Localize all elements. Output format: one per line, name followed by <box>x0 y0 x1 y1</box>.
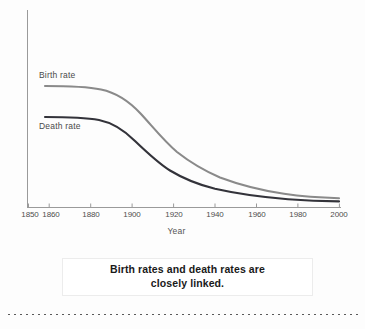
dotted-divider <box>6 313 359 316</box>
x-axis-title: Year <box>0 226 365 236</box>
caption-line-2: closely linked. <box>151 277 224 289</box>
x-tick-label-1880: 1880 <box>82 210 99 219</box>
x-axis-ticks <box>29 204 340 208</box>
x-tick-label-1920: 1920 <box>165 210 182 219</box>
x-tick-label-1860: 1860 <box>42 210 59 219</box>
caption-text: Birth rates and death rates are closely … <box>104 263 271 291</box>
caption-box: Birth rates and death rates are closely … <box>62 258 313 296</box>
figure-container: Birth rate Death rate 1850 1860 1880 190… <box>0 0 365 329</box>
x-tick-label-1960: 1960 <box>248 210 265 219</box>
x-tick-label-2000: 2000 <box>330 210 347 219</box>
x-tick-label-1850: 1850 <box>21 210 38 219</box>
x-tick-label-1900: 1900 <box>123 210 140 219</box>
x-axis-title-text: Year <box>168 226 186 236</box>
death-rate-line <box>45 117 339 201</box>
death-rate-label: Death rate <box>39 121 81 131</box>
chart-plot-area: Birth rate Death rate 1850 1860 1880 190… <box>0 0 365 245</box>
x-tick-label-1940: 1940 <box>206 210 223 219</box>
x-tick-label-1980: 1980 <box>289 210 306 219</box>
caption-line-1: Birth rates and death rates are <box>110 263 265 275</box>
birth-rate-label: Birth rate <box>39 70 76 80</box>
